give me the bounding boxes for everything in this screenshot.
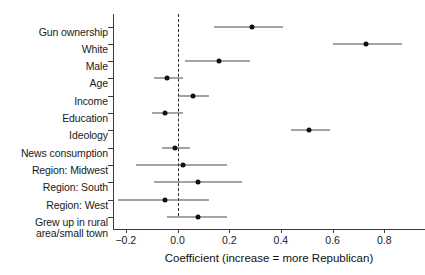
confidence-interval-bar	[152, 113, 183, 114]
x-axis-title: Coefficient (increase = more Republican)	[113, 252, 425, 264]
estimate-point	[216, 59, 221, 64]
estimate-point	[196, 214, 201, 219]
y-axis-tick	[108, 182, 113, 183]
estimate-point	[307, 128, 312, 133]
y-axis-tick	[108, 27, 113, 28]
y-axis-tick	[108, 113, 113, 114]
category-label: White	[82, 44, 108, 56]
estimate-point	[191, 93, 196, 98]
category-label: News consumption	[21, 148, 108, 160]
category-label: Age	[90, 78, 108, 90]
y-axis-tick	[108, 130, 113, 131]
estimate-point	[162, 111, 167, 116]
coefficient-plot: Gun ownershipWhiteMaleAgeIncomeEducation…	[0, 0, 425, 275]
confidence-interval-bar	[214, 26, 284, 27]
category-label: Grew up in rural area/small town	[35, 217, 108, 240]
x-axis-tick	[333, 229, 334, 233]
x-tick-label: −0.2	[115, 234, 136, 246]
category-label: Income	[74, 96, 108, 108]
x-tick-label: 0.4	[274, 234, 289, 246]
x-axis-tick	[229, 229, 230, 233]
x-tick-label: 0.2	[222, 234, 237, 246]
category-label: Gun ownership	[39, 27, 108, 39]
x-axis-tick	[178, 229, 179, 233]
x-axis-line	[113, 229, 425, 230]
x-axis-tick	[384, 229, 385, 233]
estimate-point	[180, 162, 185, 167]
x-tick-label: 0.6	[325, 234, 340, 246]
x-tick-label: 0.8	[377, 234, 392, 246]
y-axis-line	[113, 14, 114, 229]
y-axis-tick	[108, 61, 113, 62]
estimate-point	[172, 145, 177, 150]
y-axis-tick	[108, 165, 113, 166]
estimate-point	[364, 41, 369, 46]
y-axis-tick	[108, 148, 113, 149]
category-label: Region: Midwest	[32, 165, 108, 177]
category-label: Ideology	[69, 130, 108, 142]
x-tick-label: 0.0	[170, 234, 185, 246]
category-label: Male	[86, 61, 108, 73]
estimate-point	[250, 24, 255, 29]
category-label: Region: West	[46, 200, 108, 212]
estimate-point	[196, 180, 201, 185]
y-axis-tick	[108, 96, 113, 97]
y-axis-tick	[108, 200, 113, 201]
x-axis-tick	[281, 229, 282, 233]
y-axis-tick	[108, 217, 113, 218]
y-axis-tick	[108, 44, 113, 45]
category-label: Education	[62, 113, 108, 125]
category-label: Region: South	[43, 182, 108, 194]
estimate-point	[162, 197, 167, 202]
x-axis-tick	[126, 229, 127, 233]
zero-reference-line	[178, 14, 179, 216]
y-axis-tick	[108, 78, 113, 79]
estimate-point	[165, 76, 170, 81]
